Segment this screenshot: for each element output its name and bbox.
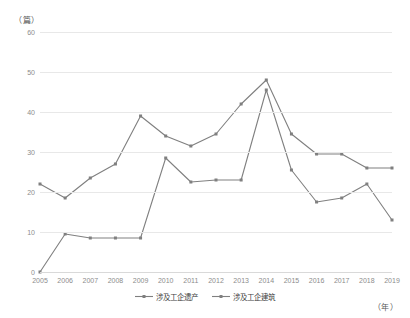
x-axis-tick-label: 2011 bbox=[183, 277, 198, 284]
x-axis-tick-label: 2012 bbox=[208, 277, 224, 284]
legend-line-marker-icon bbox=[212, 293, 230, 300]
gridline-y-0 bbox=[40, 272, 392, 273]
y-axis-tick-label: 10 bbox=[27, 229, 35, 236]
data-point-marker bbox=[290, 169, 293, 172]
x-axis-tick-label: 2005 bbox=[32, 277, 48, 284]
y-axis-unit-label: （篇） bbox=[14, 14, 40, 25]
x-axis-tick-label: 2014 bbox=[258, 277, 274, 284]
legend-label: 涉及工企遗产 bbox=[156, 291, 198, 302]
data-point-marker bbox=[164, 135, 167, 138]
data-point-marker bbox=[265, 79, 268, 82]
y-axis-tick-label: 30 bbox=[27, 149, 35, 156]
legend-item-1[interactable]: 涉及工企遗产 bbox=[135, 291, 198, 302]
x-axis-tick-label: 2007 bbox=[82, 277, 98, 284]
x-axis-tick-label: 2015 bbox=[284, 277, 300, 284]
gridline-y-20 bbox=[40, 192, 392, 193]
x-axis-tick-label: 2017 bbox=[334, 277, 350, 284]
x-axis-unit-label: （年） bbox=[373, 301, 399, 312]
data-point-marker bbox=[164, 157, 167, 160]
data-point-marker bbox=[114, 163, 117, 166]
legend-item-2[interactable]: 涉及工企建筑 bbox=[212, 291, 275, 302]
data-point-marker bbox=[240, 103, 243, 106]
y-axis-tick-label: 20 bbox=[27, 189, 35, 196]
data-point-marker bbox=[89, 177, 92, 180]
data-point-marker bbox=[315, 201, 318, 204]
x-axis-tick-label: 2018 bbox=[359, 277, 375, 284]
data-point-marker bbox=[89, 237, 92, 240]
gridline-y-30 bbox=[40, 152, 392, 153]
data-point-marker bbox=[391, 167, 394, 170]
data-point-marker bbox=[189, 181, 192, 184]
x-axis-tick-label: 2008 bbox=[108, 277, 124, 284]
gridline-y-10 bbox=[40, 232, 392, 233]
x-axis-tick-label: 2013 bbox=[233, 277, 249, 284]
data-point-marker bbox=[139, 237, 142, 240]
data-point-marker bbox=[215, 133, 218, 136]
legend-line-marker-icon bbox=[135, 293, 153, 300]
data-point-marker bbox=[365, 167, 368, 170]
y-axis-tick-label: 0 bbox=[31, 269, 35, 276]
data-point-marker bbox=[391, 219, 394, 222]
data-point-marker bbox=[114, 237, 117, 240]
data-point-marker bbox=[39, 183, 42, 186]
data-point-marker bbox=[365, 183, 368, 186]
x-axis-tick-label: 2010 bbox=[158, 277, 174, 284]
x-axis-tick-label: 2016 bbox=[309, 277, 325, 284]
y-axis-tick-label: 60 bbox=[27, 29, 35, 36]
gridline-y-50 bbox=[40, 72, 392, 73]
data-point-marker bbox=[189, 145, 192, 148]
data-point-marker bbox=[139, 115, 142, 118]
gridline-y-60 bbox=[40, 32, 392, 33]
y-axis-tick-label: 50 bbox=[27, 69, 35, 76]
data-point-marker bbox=[64, 197, 67, 200]
legend-label: 涉及工企建筑 bbox=[233, 291, 275, 302]
x-axis-tick-label: 2009 bbox=[133, 277, 149, 284]
data-point-marker bbox=[340, 197, 343, 200]
data-point-marker bbox=[265, 89, 268, 92]
chart-legend: 涉及工企遗产涉及工企建筑 bbox=[0, 291, 410, 302]
gridline-y-40 bbox=[40, 112, 392, 113]
y-axis-tick-label: 40 bbox=[27, 109, 35, 116]
data-point-marker bbox=[240, 179, 243, 182]
plot-area: 0102030405060200520062007200820092010201… bbox=[40, 32, 392, 272]
x-axis-tick-label: 2006 bbox=[57, 277, 73, 284]
chart-container: （篇） （年） 01020304050602005200620072008200… bbox=[0, 0, 410, 318]
data-point-marker bbox=[290, 133, 293, 136]
x-axis-tick-label: 2019 bbox=[384, 277, 400, 284]
data-point-marker bbox=[215, 179, 218, 182]
